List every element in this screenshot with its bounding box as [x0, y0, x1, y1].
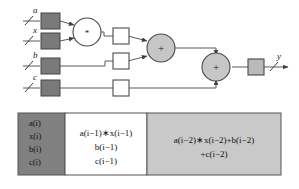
adder-2-symbol: + — [213, 61, 219, 73]
wire-x-to-multiplier — [60, 38, 74, 41]
stage-one-line-1: b(i−1) — [95, 142, 118, 152]
stage-inputs-line-0: a(i) — [29, 118, 41, 128]
pipeline-register-3[interactable] — [113, 80, 129, 96]
label-input-c: c — [33, 72, 37, 82]
register-c[interactable] — [41, 80, 60, 96]
output-register[interactable] — [248, 59, 264, 75]
label-input-b: b — [33, 50, 38, 60]
datapath-diagram: * + + a x b c y a(i) x( — [0, 0, 299, 189]
stage-one-line-2: c(i−1) — [95, 156, 117, 166]
label-input-a: a — [33, 5, 38, 15]
multiplier-symbol: * — [85, 28, 90, 38]
register-x[interactable] — [41, 33, 60, 49]
label-input-x: x — [32, 25, 37, 35]
input-register-group — [41, 13, 60, 96]
wire-multiplier-to-reg1 — [100, 32, 113, 36]
wire-a-to-multiplier — [60, 21, 74, 25]
stage-inputs-line-3: c(i) — [29, 157, 41, 167]
stage-two-line-0: a(i−2)∗x(i−2)+b(i−2) — [174, 135, 254, 145]
stage-table: a(i) x(i) b(i) c(i) a(i−1)∗x(i−1) b(i−1)… — [18, 113, 281, 175]
stage-inputs-line-1: x(i) — [29, 131, 41, 141]
wire-reg3-to-adder2 — [128, 80, 216, 88]
figure-root: * + + a x b c y a(i) x( — [0, 0, 299, 189]
stage-inputs-line-2: b(i) — [29, 144, 41, 154]
wire-reg1-to-adder1 — [128, 36, 147, 41]
pipeline-register-group — [113, 28, 129, 96]
stage-column-inputs — [18, 113, 65, 175]
label-output-y: y — [276, 51, 281, 61]
adder-1-symbol: + — [158, 42, 164, 54]
pipeline-register-2[interactable] — [113, 53, 129, 69]
register-a[interactable] — [41, 13, 60, 29]
stage-two-line-1: +c(i−2) — [200, 149, 227, 159]
wire-reg2-to-adder1 — [128, 56, 147, 61]
wire-b-to-reg2 — [60, 61, 113, 66]
pipeline-register-1[interactable] — [113, 28, 129, 44]
register-b[interactable] — [41, 58, 60, 74]
stage-one-line-0: a(i−1)∗x(i−1) — [80, 128, 133, 138]
